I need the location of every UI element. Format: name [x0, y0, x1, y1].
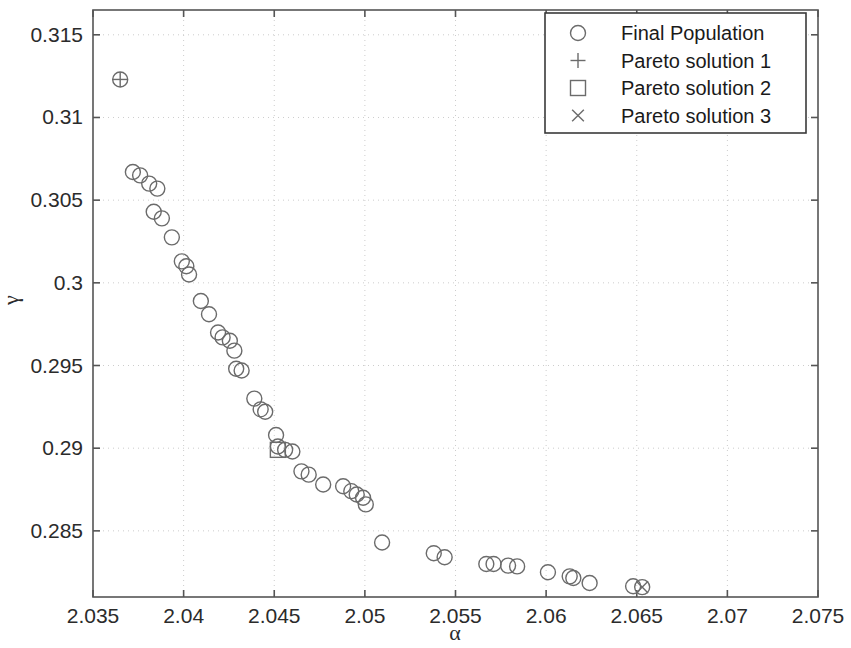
data-point-circle-marker: [174, 254, 189, 269]
data-points: [113, 72, 650, 595]
data-point-circle-marker: [540, 565, 555, 580]
scatter-plot: 2.0352.042.0452.052.0552.062.0652.072.07…: [0, 0, 851, 648]
data-point-circle-marker: [193, 294, 208, 309]
series-pareto-solution-3: [636, 581, 648, 593]
y-tick-label: 0.29: [42, 436, 83, 459]
data-point-circle-marker: [227, 343, 242, 358]
data-point-circle-marker: [202, 307, 217, 322]
y-tick-label: 0.315: [30, 23, 83, 46]
legend-label: Pareto solution 1: [621, 50, 771, 72]
y-tick-label: 0.3: [54, 271, 83, 294]
data-point-circle-marker: [375, 535, 390, 550]
figure-canvas: 2.0352.042.0452.052.0552.062.0652.072.07…: [0, 0, 851, 648]
y-tick-label: 0.31: [42, 105, 83, 128]
y-axis-tick-labels: 0.2850.290.2950.30.3050.310.315: [30, 23, 83, 542]
data-point-circle-marker: [164, 230, 179, 245]
x-tick-label: 2.075: [792, 604, 845, 627]
legend: Final PopulationPareto solution 1Pareto …: [545, 13, 806, 133]
y-tick-label: 0.285: [30, 519, 83, 542]
data-point-circle-marker: [582, 575, 597, 590]
data-point-circle-marker: [258, 404, 273, 419]
data-point-circle-marker: [510, 559, 525, 574]
y-tick-label: 0.305: [30, 188, 83, 211]
data-point-circle-marker: [234, 363, 249, 378]
legend-label: Pareto solution 2: [621, 77, 771, 99]
x-tick-label: 2.07: [707, 604, 748, 627]
legend-label: Final Population: [621, 22, 764, 44]
y-axis-title: γ: [0, 295, 23, 306]
data-point-circle-marker: [316, 477, 331, 492]
x-tick-label: 2.065: [610, 604, 663, 627]
x-tick-label: 2.035: [67, 604, 120, 627]
data-point-circle-marker: [247, 391, 262, 406]
series-final-population: [113, 72, 650, 595]
legend-label: Pareto solution 3: [621, 105, 771, 127]
data-point-cross-marker: [636, 581, 648, 593]
x-tick-label: 2.04: [163, 604, 204, 627]
x-axis-title: α: [449, 620, 461, 645]
data-point-circle-marker: [182, 267, 197, 282]
x-tick-label: 2.045: [248, 604, 301, 627]
x-tick-label: 2.05: [344, 604, 385, 627]
x-tick-label: 2.06: [526, 604, 567, 627]
y-tick-label: 0.295: [30, 354, 83, 377]
data-point-circle-marker: [179, 259, 194, 274]
